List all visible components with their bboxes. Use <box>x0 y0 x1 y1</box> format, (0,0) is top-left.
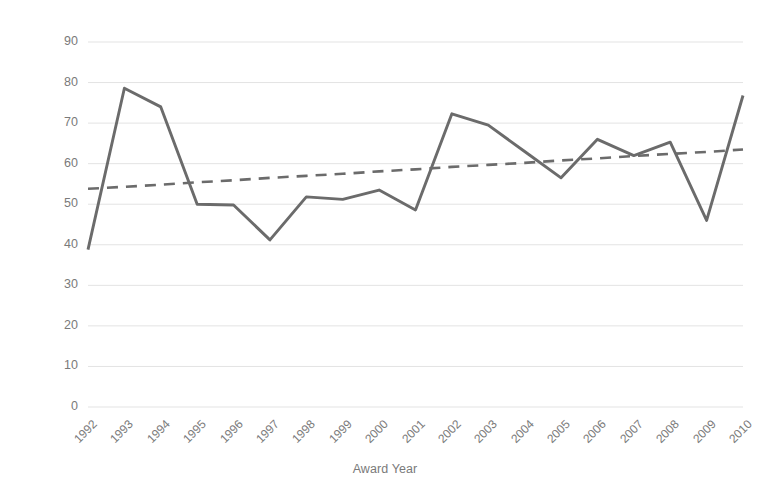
x-axis-title: Award Year <box>0 462 770 476</box>
x-axis-tick-labels: 1992199319941995199619971998199920002001… <box>0 0 770 501</box>
chart-container: Percent of NIH Projects Involving a Univ… <box>0 0 770 501</box>
